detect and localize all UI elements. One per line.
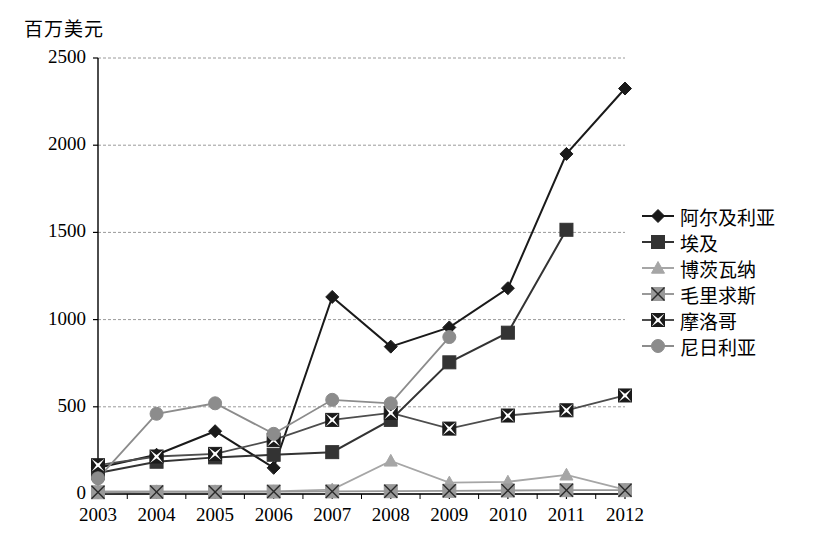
legend-item-2[interactable]: 埃及 bbox=[640, 229, 820, 255]
legend-item-4[interactable]: 毛里求斯 bbox=[640, 281, 820, 307]
legend-item-label: 摩洛哥 bbox=[676, 307, 737, 334]
legend-item-label: 博茨瓦纳 bbox=[676, 255, 756, 282]
legend-item-label: 毛里求斯 bbox=[676, 281, 756, 308]
legend-marker-square-x-icon bbox=[640, 284, 676, 304]
legend-item-1[interactable]: 阿尔及利亚 bbox=[640, 203, 820, 229]
axis-lines bbox=[98, 58, 625, 494]
chart-container: 百万美元 05001000150020002500 20032004200520… bbox=[0, 0, 824, 559]
legend-marker-square-icon bbox=[640, 232, 676, 252]
y-axis-tick-label: 2500 bbox=[14, 46, 86, 68]
gridlines bbox=[98, 58, 625, 494]
legend-item-label: 埃及 bbox=[676, 229, 718, 256]
y-axis-tick-label: 1000 bbox=[14, 308, 86, 330]
legend-item-label: 阿尔及利亚 bbox=[676, 203, 775, 230]
y-axis-tick-label: 2000 bbox=[14, 133, 86, 155]
y-axis-tick-label: 0 bbox=[14, 482, 86, 504]
legend-item-3[interactable]: 博茨瓦纳 bbox=[640, 255, 820, 281]
legend-marker-circle-icon bbox=[640, 336, 676, 356]
x-axis-tick-label: 2012 bbox=[590, 504, 660, 526]
axis-ticks bbox=[93, 58, 625, 499]
legend-marker-triangle-icon bbox=[640, 258, 676, 278]
legend-item-label: 尼日利亚 bbox=[676, 333, 756, 360]
legend-item-5[interactable]: 摩洛哥 bbox=[640, 307, 820, 333]
chart-legend: 阿尔及利亚埃及博茨瓦纳毛里求斯摩洛哥尼日利亚 bbox=[640, 203, 820, 359]
y-axis-tick-label: 1500 bbox=[14, 220, 86, 242]
series-lines bbox=[98, 89, 625, 493]
legend-marker-diamond-icon bbox=[640, 206, 676, 226]
legend-item-6[interactable]: 尼日利亚 bbox=[640, 333, 820, 359]
y-axis-tick-label: 500 bbox=[14, 395, 86, 417]
legend-marker-x-box-icon bbox=[640, 310, 676, 330]
